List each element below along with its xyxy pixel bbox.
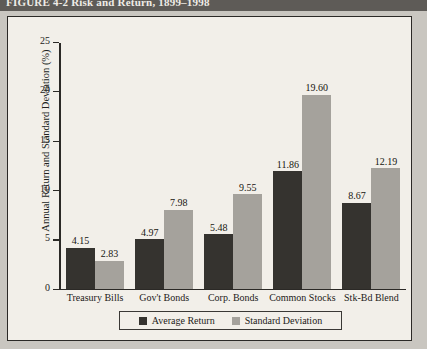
x-axis-line bbox=[59, 289, 406, 291]
y-axis-tick-label: 15 bbox=[40, 134, 50, 145]
bar-standard-deviation[interactable]: 19.60 bbox=[302, 95, 331, 289]
x-axis-label-corp-bonds: Corp. Bonds bbox=[199, 292, 268, 303]
bar-average-return[interactable]: 11.86 bbox=[273, 171, 302, 288]
y-axis-tick: 0 bbox=[53, 289, 59, 290]
bar-group: 4.15 2.83 bbox=[61, 43, 130, 289]
bar-group: 11.86 19.60 bbox=[268, 43, 337, 289]
bars-layer: 4.15 2.83 4.97 7.98 5.48 9.55 bbox=[61, 43, 407, 289]
figure-title-band: FIGURE 4-2 Risk and Return, 1899–1998 bbox=[0, 0, 427, 11]
y-axis-tick-label: 5 bbox=[45, 232, 50, 243]
bar-standard-deviation[interactable]: 7.98 bbox=[164, 210, 193, 289]
x-axis-label-treasury-bills: Treasury Bills bbox=[61, 292, 130, 303]
bar-average-return[interactable]: 8.67 bbox=[342, 203, 371, 289]
legend-label: Average Return bbox=[152, 315, 215, 326]
legend-swatch-icon bbox=[139, 317, 147, 325]
legend-entry-average-return[interactable]: Average Return bbox=[139, 315, 215, 326]
bar-average-return[interactable]: 4.15 bbox=[66, 248, 95, 289]
bar-value-label: 4.97 bbox=[141, 227, 159, 238]
y-axis-tick-label: 10 bbox=[40, 183, 50, 194]
bar-average-return[interactable]: 4.97 bbox=[135, 239, 164, 288]
bar-average-return[interactable]: 5.48 bbox=[204, 234, 233, 288]
legend-swatch-icon bbox=[232, 317, 240, 325]
x-axis-label-govt-bonds: Gov't Bonds bbox=[130, 292, 199, 303]
x-axis-category-labels: Treasury Bills Gov't Bonds Corp. Bonds C… bbox=[61, 292, 407, 303]
bar-value-label: 19.60 bbox=[306, 82, 329, 93]
x-axis-label-stk-bd-blend: Stk-Bd Blend bbox=[337, 292, 406, 303]
bar-value-label: 9.55 bbox=[239, 182, 257, 193]
bar-value-label: 12.19 bbox=[375, 156, 398, 167]
y-axis-tick: 25 bbox=[53, 42, 59, 43]
legend-entry-standard-deviation[interactable]: Standard Deviation bbox=[232, 315, 322, 326]
x-axis-label-common-stocks: Common Stocks bbox=[268, 292, 337, 303]
y-axis-tick: 10 bbox=[53, 190, 59, 191]
y-axis-tick-label: 0 bbox=[45, 282, 50, 293]
bar-standard-deviation[interactable]: 9.55 bbox=[233, 194, 262, 288]
bar-group: 4.97 7.98 bbox=[130, 43, 199, 289]
figure-frame: Annual Return and Standard Deviation (%)… bbox=[7, 16, 412, 341]
figure-title: FIGURE 4-2 Risk and Return, 1899–1998 bbox=[6, 0, 210, 8]
bar-value-label: 7.98 bbox=[170, 197, 188, 208]
y-axis-tick: 5 bbox=[53, 239, 59, 240]
bar-standard-deviation[interactable]: 2.83 bbox=[95, 261, 124, 289]
y-axis-tick: 20 bbox=[53, 91, 59, 92]
bar-value-label: 11.86 bbox=[277, 159, 299, 170]
bar-value-label: 5.48 bbox=[210, 222, 228, 233]
bar-group: 5.48 9.55 bbox=[199, 43, 268, 289]
bar-standard-deviation[interactable]: 12.19 bbox=[371, 168, 400, 288]
y-axis-tick: 15 bbox=[53, 141, 59, 142]
bar-value-label: 2.83 bbox=[101, 248, 119, 259]
bar-group: 8.67 12.19 bbox=[337, 43, 406, 289]
bar-value-label: 4.15 bbox=[72, 235, 90, 246]
bar-value-label: 8.67 bbox=[348, 190, 366, 201]
legend-label: Standard Deviation bbox=[245, 315, 322, 326]
legend: Average Return Standard Deviation bbox=[119, 311, 342, 330]
y-axis-tick-label: 25 bbox=[40, 35, 50, 46]
plot-area: 0 5 10 15 20 25 4.15 2.83 bbox=[59, 43, 406, 290]
y-axis-tick-label: 20 bbox=[40, 84, 50, 95]
